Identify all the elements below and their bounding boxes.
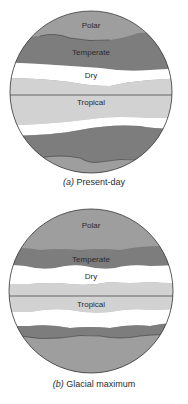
label-polar: Polar	[82, 221, 101, 230]
band-polar-south	[0, 334, 188, 404]
caption-text: Present-day	[76, 177, 125, 187]
globe-present-day: Polar Temperate Dry Tropical	[0, 0, 188, 200]
label-temperate: Temperate	[72, 48, 110, 57]
label-polar: Polar	[82, 21, 101, 30]
caption-glacial-maximum: (b) Glacial maximum	[0, 379, 188, 389]
label-dry: Dry	[85, 272, 97, 281]
caption-text: Glacial maximum	[66, 379, 135, 389]
label-tropical: Tropical	[77, 300, 105, 309]
panel-glacial-maximum: Polar Temperate Dry Tropical (b) Glacial…	[0, 200, 188, 404]
caption-present-day: (a) Present-day	[0, 177, 188, 187]
caption-prefix: (a)	[63, 177, 74, 187]
caption-prefix: (b)	[53, 379, 64, 389]
panel-present-day: Polar Temperate Dry Tropical (a) Present…	[0, 0, 188, 200]
label-temperate: Temperate	[72, 255, 110, 264]
label-tropical: Tropical	[77, 98, 105, 107]
label-dry: Dry	[85, 71, 97, 80]
globe-glacial-maximum: Polar Temperate Dry Tropical	[0, 200, 188, 404]
